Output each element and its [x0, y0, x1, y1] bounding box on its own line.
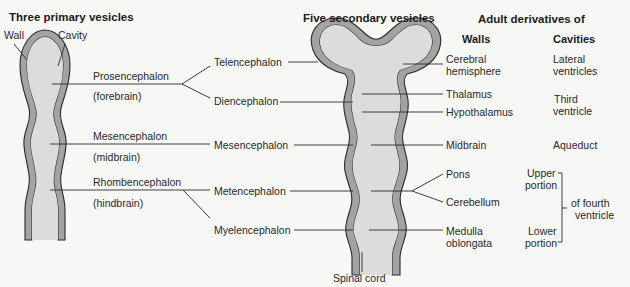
- cavity-fourth-ventricle-line1: of fourth: [571, 197, 610, 209]
- label-diencephalon: Diencephalon: [214, 95, 278, 107]
- primary-vesicle-shape: [20, 30, 70, 240]
- label-cavity: Cavity: [58, 29, 87, 41]
- cavity-lower-portion-line2: portion: [525, 237, 557, 249]
- cavity-fourth-ventricle-line2: ventricle: [575, 209, 614, 221]
- secondary-vesicle-shape: [311, 18, 440, 275]
- label-prosencephalon: Prosencephalon: [93, 70, 169, 82]
- label-hindbrain: (hindbrain): [93, 197, 143, 209]
- cavity-third-line2: ventricle: [553, 105, 592, 117]
- label-mesencephalon-primary: Mesencephalon: [93, 130, 167, 142]
- cavity-upper-portion-line1: Upper: [527, 167, 556, 179]
- cavity-lower-portion-line1: Lower: [528, 225, 557, 237]
- wall-cerebral-hemisphere-line1: Cerebral: [446, 53, 486, 65]
- label-spinal-cord: Spinal cord: [333, 272, 386, 284]
- label-metencephalon: Metencephalon: [214, 185, 286, 197]
- heading-cavities: Cavities: [553, 33, 595, 45]
- label-wall: Wall: [4, 29, 24, 41]
- wall-cerebellum: Cerebellum: [446, 196, 500, 208]
- wall-medulla-line2: oblongata: [446, 237, 492, 249]
- label-midbrain-primary: (midbrain): [93, 151, 140, 163]
- heading-secondary-vesicles: Five secondary vesicles: [303, 12, 435, 24]
- label-mesencephalon-secondary: Mesencephalon: [214, 139, 288, 151]
- wall-pons: Pons: [446, 168, 470, 180]
- heading-walls: Walls: [462, 33, 490, 45]
- heading-primary-vesicles: Three primary vesicles: [9, 11, 134, 23]
- label-myelencephalon: Myelencephalon: [214, 224, 290, 236]
- heading-adult-derivatives: Adult derivatives of: [478, 13, 585, 25]
- cavity-upper-portion-line2: portion: [525, 179, 557, 191]
- wall-medulla-line1: Medulla: [446, 225, 483, 237]
- wall-midbrain: Midbrain: [446, 139, 486, 151]
- wall-cerebral-hemisphere-line2: hemisphere: [446, 65, 501, 77]
- wall-hypothalamus: Hypothalamus: [446, 106, 513, 118]
- cavity-third-line1: Third: [554, 93, 578, 105]
- label-forebrain: (forebrain): [93, 90, 141, 102]
- cavity-lateral-line1: Lateral: [553, 53, 585, 65]
- label-rhombencephalon: Rhombencephalon: [93, 176, 181, 188]
- cavity-lateral-line2: ventricles: [553, 65, 597, 77]
- label-telencephalon: Telencephalon: [214, 56, 282, 68]
- cavity-aqueduct: Aqueduct: [553, 139, 597, 151]
- wall-thalamus: Thalamus: [446, 88, 492, 100]
